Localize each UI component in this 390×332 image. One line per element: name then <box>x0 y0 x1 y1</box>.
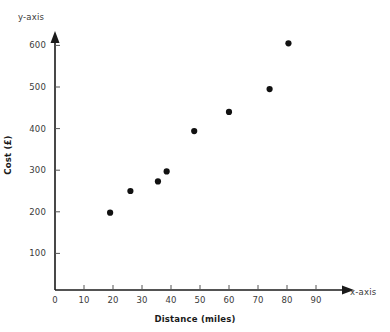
data-point <box>127 188 133 194</box>
scatter-plot-figure: 0102030405060708090100200300400500600 y-… <box>0 0 390 332</box>
data-points-group <box>107 40 292 216</box>
y-axis-corner-label: y-axis <box>18 12 44 22</box>
y-tick-label: 600 <box>14 40 46 50</box>
data-point <box>267 86 273 92</box>
x-tick-label: 70 <box>243 295 273 305</box>
x-axis-corner-label: x-axis <box>350 287 376 297</box>
x-tick-label: 60 <box>214 295 244 305</box>
y-axis-title: Cost (£) <box>3 120 13 190</box>
x-tick-label: 50 <box>185 295 215 305</box>
data-point <box>164 168 170 174</box>
x-tick-label: 90 <box>301 295 331 305</box>
x-axis-title: Distance (miles) <box>0 314 390 324</box>
y-tick-label: 200 <box>14 207 46 217</box>
tick-marks-group <box>55 45 316 290</box>
y-tick-label: 500 <box>14 82 46 92</box>
x-tick-label: 0 <box>40 295 70 305</box>
data-point <box>285 40 291 46</box>
x-tick-label: 30 <box>127 295 157 305</box>
y-axis-arrow-icon <box>51 31 60 43</box>
data-point <box>107 210 113 216</box>
axes-group <box>51 31 355 295</box>
plot-canvas <box>0 0 390 332</box>
y-tick-label: 300 <box>14 165 46 175</box>
data-point <box>226 109 232 115</box>
y-tick-label: 100 <box>14 248 46 258</box>
x-tick-label: 20 <box>98 295 128 305</box>
data-point <box>191 128 197 134</box>
data-point <box>155 178 161 184</box>
x-tick-label: 80 <box>272 295 302 305</box>
x-tick-label: 10 <box>69 295 99 305</box>
x-tick-label: 40 <box>156 295 186 305</box>
y-tick-label: 400 <box>14 124 46 134</box>
